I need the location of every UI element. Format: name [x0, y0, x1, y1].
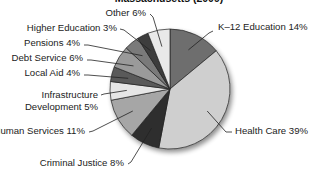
label-criminal-justice: Criminal Justice 8% — [40, 157, 125, 168]
label-other: Other 6% — [105, 7, 146, 18]
label-infrastructure-development: InfrastructureDevelopment 5% — [25, 89, 99, 112]
label-pensions: Pensions 4% — [24, 37, 80, 48]
label-k-12-education: K–12 Education 14% — [218, 21, 308, 32]
chart-title: Massachusetts (2009) — [115, 0, 224, 4]
pie-slices — [110, 29, 230, 149]
label-human-services: Human Services 11% — [0, 125, 85, 136]
label-debt-service: Debt Service 6% — [12, 52, 84, 63]
label-health-care: Health Care 39% — [235, 125, 309, 136]
label-local-aid: Local Aid 4% — [25, 67, 81, 78]
label-higher-education: Higher Education 3% — [27, 22, 118, 33]
pie-chart: Massachusetts (2009) K–12 Education 14%H… — [0, 0, 311, 175]
